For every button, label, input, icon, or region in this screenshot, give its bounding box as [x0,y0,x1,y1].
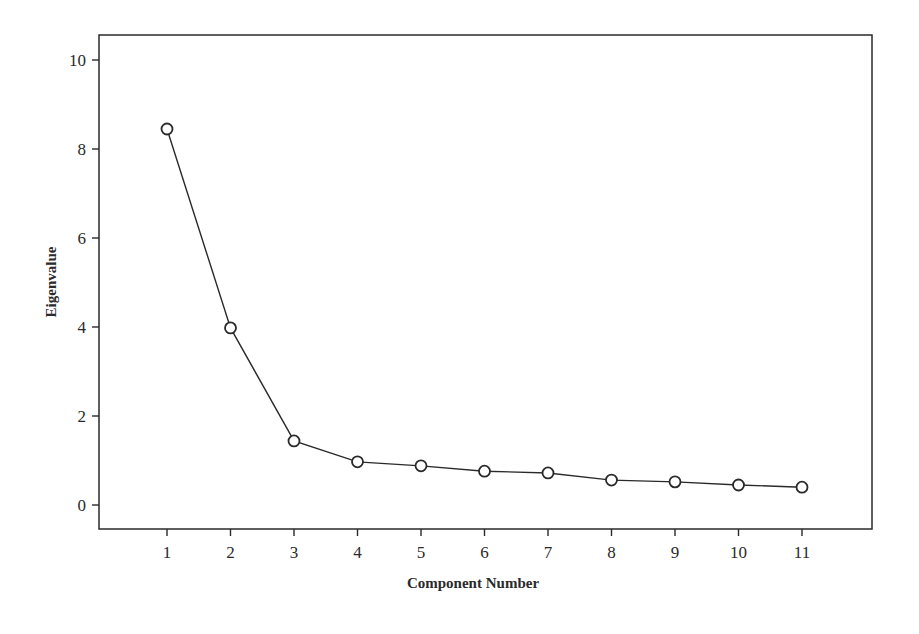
plot-frame [99,35,872,529]
y-tick-label: 10 [69,51,86,70]
y-tick-label: 6 [78,229,87,248]
data-point-marker [797,482,808,493]
x-tick-label: 6 [480,543,489,562]
data-point-marker [479,466,490,477]
data-point-marker [543,467,554,478]
x-tick-label: 3 [290,543,299,562]
x-tick-label: 8 [607,543,616,562]
data-point-marker [225,322,236,333]
x-tick-label: 5 [417,543,426,562]
y-tick-label: 4 [78,318,87,337]
eigenvalue-line [167,129,802,487]
x-tick-label: 1 [163,543,172,562]
y-tick-label: 0 [78,496,87,515]
x-tick-label: 11 [794,543,810,562]
x-tick-label: 4 [353,543,362,562]
y-tick-label: 2 [78,407,87,426]
data-point-markers [162,123,808,492]
x-axis-title: Component Number [407,575,539,591]
data-point-marker [670,476,681,487]
data-point-marker [289,435,300,446]
y-tick-label: 8 [78,140,87,159]
data-point-marker [162,123,173,134]
x-axis: 1234567891011 [163,529,810,562]
x-tick-label: 7 [544,543,553,562]
data-point-marker [733,479,744,490]
data-point-marker [606,475,617,486]
x-tick-label: 2 [226,543,235,562]
data-point-marker [416,460,427,471]
scree-plot: 0246810 1234567891011 Component Number E… [0,0,919,634]
x-tick-label: 9 [671,543,680,562]
y-axis-title: Eigenvalue [43,246,59,317]
data-point-marker [352,456,363,467]
y-axis: 0246810 [69,51,99,515]
x-tick-label: 10 [730,543,747,562]
